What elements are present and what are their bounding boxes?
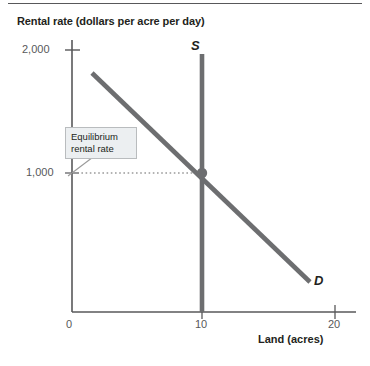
equilibrium-point-marker (197, 168, 207, 178)
equilibrium-annotation-line2: rental rate (71, 143, 132, 155)
x-tick-label-20: 20 (328, 318, 340, 330)
equilibrium-annotation-callout: Equilibrium rental rate (65, 127, 137, 159)
equilibrium-annotation-line1: Equilibrium (71, 131, 132, 143)
supply-curve-label: S (191, 38, 200, 53)
x-tick-label-10: 10 (195, 318, 207, 330)
y-tick-label-1000: 1,000 (26, 166, 54, 178)
x-tick-label-0: 0 (66, 318, 72, 330)
supply-demand-chart (0, 0, 370, 366)
y-tick-label-2000: 2,000 (22, 43, 50, 55)
chart-axes (72, 40, 356, 312)
demand-curve-label: D (314, 273, 323, 288)
x-axis-title: Land (acres) (258, 333, 323, 345)
y-axis-title: Rental rate (dollars per acre per day) (17, 15, 205, 27)
